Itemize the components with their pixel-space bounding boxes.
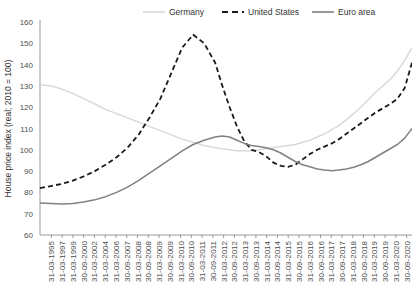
x-tick-label-30-09-2009: 30-09-2009: [166, 240, 175, 281]
legend-label-united-states: United States: [248, 7, 299, 17]
x-tick-label-30-09-2010: 30-09-2010: [187, 240, 196, 281]
x-tick-label-30-09-2012: 30-09-2012: [230, 240, 239, 281]
x-tick-label-30-09-2008: 30-09-2008: [144, 240, 153, 281]
y-tick-label-110: 110: [20, 125, 33, 134]
y-tick-label-140: 140: [20, 61, 34, 70]
x-tick-label-30-09-2007: 30-09-2007: [123, 240, 132, 281]
house-price-index-chart: 60708090100110120130140150160House price…: [0, 0, 412, 308]
x-tick-label-30-09-2018: 30-09-2018: [360, 240, 369, 281]
x-tick-label-31-03-2017: 31-03-2017: [327, 240, 336, 281]
y-tick-label-80: 80: [24, 188, 33, 197]
x-tick-label-31-03-2016: 31-03-2016: [306, 240, 315, 281]
x-tick-label-30-09-2017: 30-09-2017: [338, 240, 347, 281]
x-tick-label-31-03-1997: 31-03-1997: [58, 240, 67, 281]
x-tick-label-31-03-2012: 31-03-2012: [220, 240, 229, 281]
x-tick-label-31-03-2011: 31-03-2011: [198, 240, 207, 281]
x-tick-label-30-09-2014: 30-09-2014: [273, 240, 282, 281]
chart-canvas: 60708090100110120130140150160House price…: [0, 0, 412, 308]
x-tick-label-31-03-2009: 31-03-2009: [155, 240, 164, 281]
y-tick-label-60: 60: [24, 231, 33, 240]
x-tick-label-31-03-2015: 31-03-2015: [284, 240, 293, 281]
y-tick-label-70: 70: [24, 210, 33, 219]
legend-label-germany: Germany: [169, 7, 205, 17]
x-tick-label-31-03-2014: 31-03-2014: [263, 240, 272, 281]
x-tick-label-30-09-2019: 30-09-2019: [381, 240, 390, 281]
y-axis: 60708090100110120130140150160: [20, 18, 34, 240]
x-tick-label-31-03-2008: 31-03-2008: [134, 240, 143, 281]
series-line-euro-area: [40, 129, 412, 205]
y-tick-label-130: 130: [20, 82, 34, 91]
x-tick-label-31-03-2010: 31-03-2010: [177, 240, 186, 281]
x-tick-label-31-03-1995: 31-03-1995: [47, 240, 56, 281]
x-tick-label-31-03-2002: 31-03-2002: [90, 240, 99, 281]
x-tick-label-31-03-2020: 31-03-2020: [392, 240, 401, 281]
legend-label-euro-area: Euro area: [338, 7, 376, 17]
y-tick-label-160: 160: [20, 18, 34, 27]
x-tick-label-31-03-2018: 31-03-2018: [349, 240, 358, 281]
legend: GermanyUnited StatesEuro area: [143, 7, 376, 17]
x-tick-label-31-03-1999: 31-03-1999: [69, 240, 78, 281]
y-tick-label-90: 90: [24, 167, 33, 176]
x-tick-label-31-03-2006: 31-03-2006: [112, 240, 121, 281]
x-tick-label-30-09-2020: 30-09-2020: [403, 240, 412, 281]
y-tick-label-100: 100: [20, 146, 34, 155]
x-tick-label-30-09-2000: 30-09-2000: [80, 240, 89, 281]
x-tick-label-30-09-2016: 30-09-2016: [317, 240, 326, 281]
x-tick-label-31-03-2004: 31-03-2004: [101, 240, 110, 281]
x-tick-label-31-03-2019: 31-03-2019: [370, 240, 379, 281]
x-tick-label-30-09-2011: 30-09-2011: [209, 240, 218, 281]
x-axis: 31-03-199531-03-199731-03-199930-09-2000…: [47, 235, 411, 282]
x-tick-label-31-03-2013: 31-03-2013: [241, 240, 250, 281]
x-tick-label-30-09-2015: 30-09-2015: [295, 240, 304, 281]
y-axis-title: House price index (real; 2010 = 100): [3, 59, 13, 197]
y-tick-label-150: 150: [20, 39, 34, 48]
y-tick-label-120: 120: [20, 103, 34, 112]
x-tick-label-30-09-2013: 30-09-2013: [252, 240, 261, 281]
